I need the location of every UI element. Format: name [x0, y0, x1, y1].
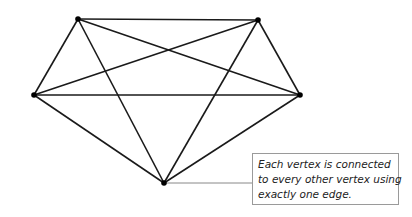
- edge-top-left-left: [34, 19, 78, 95]
- callout-line-3: exactly one edge.: [258, 187, 393, 202]
- edge-top-right-bottom: [164, 20, 258, 183]
- edge-top-right-right: [258, 20, 300, 95]
- vertex-left: [31, 92, 37, 98]
- vertex-top-right: [255, 17, 261, 23]
- callout-line-2: to every other vertex using: [258, 172, 393, 187]
- vertex-top-left: [75, 16, 81, 22]
- vertex-bottom: [161, 180, 167, 186]
- callout-box: Each vertex is connected to every other …: [252, 153, 399, 205]
- edge-top-right-left: [34, 20, 258, 95]
- callout-line-1: Each vertex is connected: [258, 157, 393, 172]
- vertex-right: [297, 92, 303, 98]
- edge-top-left-top-right: [78, 19, 258, 20]
- edge-left-bottom: [34, 95, 164, 183]
